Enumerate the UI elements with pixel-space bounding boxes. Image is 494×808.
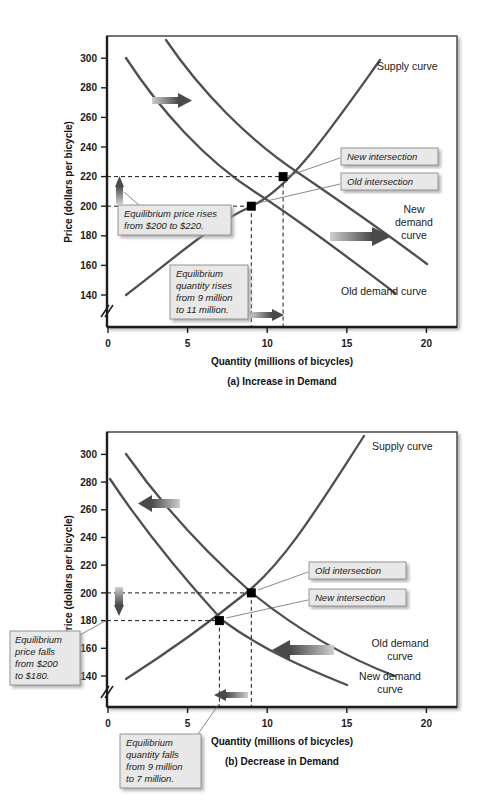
y-tick-label: 220 bbox=[80, 560, 97, 571]
svg-text:Supply curve: Supply curve bbox=[377, 60, 438, 72]
y-tick-label: 160 bbox=[80, 643, 97, 654]
old-demand-curve-label-a: Old demand curve bbox=[341, 285, 427, 297]
new-demand-label-line-1: New demand bbox=[359, 670, 421, 682]
panel-b-plot: 140 160 180 200 220 240 260 280 300 0 5 … bbox=[0, 404, 494, 808]
y-tick-label: 300 bbox=[80, 53, 97, 64]
y-tick-label: 280 bbox=[80, 82, 97, 93]
panel-a-plot: 140 160 180 200 220 240 260 280 300 0 bbox=[0, 0, 494, 404]
y-tick-label: 260 bbox=[80, 112, 97, 123]
new-demand-label-line-2: curve bbox=[377, 683, 403, 695]
panel-a: 140 160 180 200 220 240 260 280 300 0 bbox=[0, 0, 494, 404]
x-tick-label: 20 bbox=[421, 718, 433, 729]
panel-b-title: (b) Decrease in Demand bbox=[225, 756, 339, 767]
new-intersection-label-text: New intersection bbox=[315, 592, 385, 603]
new-demand-label-line-2: demand bbox=[395, 216, 433, 228]
y-axis-title: Price (dollars per bicycle) bbox=[63, 515, 74, 637]
new-demand-label-line-3: curve bbox=[401, 229, 427, 241]
old-demand-label-line-1: Old demand bbox=[371, 637, 428, 649]
y-tick-label: 160 bbox=[80, 260, 97, 271]
quantity-callout-a[interactable]: Equilibrium quantity rises from 9 millio… bbox=[170, 265, 248, 319]
old-intersection-label-text: Old intersection bbox=[315, 565, 381, 576]
new-intersection-label-b[interactable]: New intersection bbox=[309, 589, 406, 606]
quantity-callout-line-2: quantity falls bbox=[126, 749, 179, 760]
x-tick-label: 5 bbox=[185, 338, 191, 349]
y-axis-title: Price (dollars per bicycle) bbox=[63, 121, 74, 243]
y-tick-label: 140 bbox=[80, 671, 97, 682]
old-intersection-label-text: Old intersection bbox=[347, 176, 413, 187]
old-intersection-point-b bbox=[247, 588, 256, 597]
x-tick-label: 0 bbox=[105, 718, 111, 729]
new-intersection-label-a[interactable]: New intersection bbox=[341, 148, 438, 165]
y-tick-label: 240 bbox=[80, 142, 97, 153]
x-tick-label: 0 bbox=[105, 338, 111, 349]
price-callout-line-2: from $200 to $220. bbox=[124, 220, 204, 231]
y-tick-label: 180 bbox=[80, 615, 97, 626]
price-callout-line-1: Equilibrium price rises bbox=[124, 208, 217, 219]
x-tick-label: 5 bbox=[185, 718, 191, 729]
quantity-callout-line-4: to 7 million. bbox=[126, 773, 174, 784]
y-tick-label: 280 bbox=[80, 477, 97, 488]
x-tick-label: 20 bbox=[421, 338, 433, 349]
figure-page: 140 160 180 200 220 240 260 280 300 0 bbox=[0, 0, 494, 808]
x-tick-label: 15 bbox=[341, 718, 353, 729]
new-intersection-label-text: New intersection bbox=[347, 151, 417, 162]
x-axis-title: Quantity (millions of bicycles) bbox=[211, 736, 353, 747]
x-tick-label: 15 bbox=[341, 338, 353, 349]
y-tick-label: 180 bbox=[80, 230, 97, 241]
y-tick-label: 140 bbox=[80, 290, 97, 301]
old-intersection-label-a[interactable]: Old intersection bbox=[341, 173, 438, 190]
panel-b: 140 160 180 200 220 240 260 280 300 0 5 … bbox=[0, 404, 494, 808]
quantity-callout-line-3: from 9 million bbox=[176, 292, 233, 303]
price-callout-line-1: Equilibrium bbox=[15, 634, 62, 645]
y-tick-label: 240 bbox=[80, 532, 97, 543]
panel-a-title: (a) Increase in Demand bbox=[227, 376, 336, 387]
x-tick-label: 10 bbox=[262, 338, 274, 349]
y-tick-label: 220 bbox=[80, 171, 97, 182]
x-axis-title: Quantity (millions of bicycles) bbox=[211, 356, 353, 367]
new-intersection-point-b bbox=[215, 616, 224, 625]
svg-text:Old demand curve: Old demand curve bbox=[341, 285, 427, 297]
new-intersection-point-a bbox=[279, 172, 288, 181]
supply-curve-label-a: Supply curve bbox=[377, 60, 438, 72]
quantity-callout-line-1: Equilibrium bbox=[126, 737, 173, 748]
y-tick-label: 260 bbox=[80, 504, 97, 515]
price-callout-line-2: price falls bbox=[14, 646, 55, 657]
price-callout-a[interactable]: Equilibrium price rises from $200 to $22… bbox=[118, 205, 231, 235]
quantity-callout-line-4: to 11 million. bbox=[176, 304, 229, 315]
price-callout-line-4: to $180. bbox=[15, 670, 49, 681]
y-tick-label: 300 bbox=[80, 449, 97, 460]
x-tick-label: 10 bbox=[262, 718, 274, 729]
y-tick-label: 200 bbox=[80, 588, 97, 599]
quantity-callout-line-3: from 9 million bbox=[126, 761, 183, 772]
price-callout-b[interactable]: Equilibrium price falls from $200 to $18… bbox=[10, 631, 80, 685]
quantity-callout-line-2: quantity rises bbox=[176, 280, 232, 291]
old-intersection-point-a bbox=[247, 202, 256, 211]
quantity-callout-b[interactable]: Equilibrium quantity falls from 9 millio… bbox=[120, 734, 201, 788]
old-demand-label-line-2: curve bbox=[387, 650, 413, 662]
price-callout-line-3: from $200 bbox=[15, 658, 58, 669]
old-intersection-label-b[interactable]: Old intersection bbox=[309, 562, 406, 579]
quantity-callout-line-1: Equilibrium bbox=[176, 268, 223, 279]
supply-curve-label-b: Supply curve bbox=[372, 440, 433, 452]
new-demand-label-line-1: New bbox=[403, 203, 424, 215]
y-tick-label: 200 bbox=[80, 201, 97, 212]
